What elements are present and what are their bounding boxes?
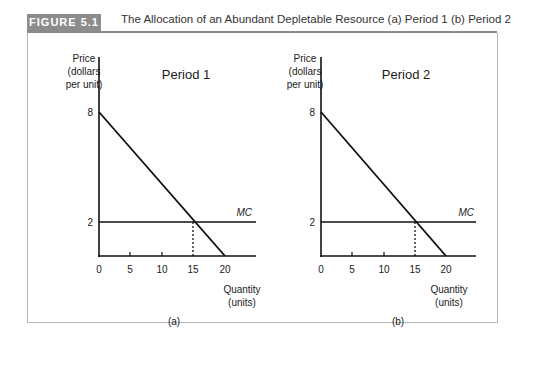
x-tick-20: 20 [219, 264, 231, 275]
mc-label: MC [236, 207, 252, 218]
demand-curve [99, 112, 225, 256]
panel-title: Period 1 [162, 67, 210, 82]
x-tick-5: 5 [127, 264, 133, 275]
x-tick-10: 10 [378, 264, 390, 275]
x-tick-0: 0 [96, 264, 102, 275]
x-tick-15: 15 [409, 264, 421, 275]
panel-period-1: Price (dollars per unit) Period 1 8 2 0 … [66, 53, 261, 327]
y-axis-label-line1: Price [294, 53, 317, 64]
x-axis-label-line2: (units) [435, 297, 463, 308]
y-tick-2: 2 [309, 217, 315, 228]
y-tick-2: 2 [87, 217, 93, 228]
x-axis-label-line1: Quantity [223, 284, 260, 295]
demand-curve [321, 112, 446, 256]
y-axis-label-line2: (dollars [289, 66, 322, 77]
y-axis-label-line3: per unit) [66, 79, 103, 90]
y-axis-label-line2: (dollars [68, 66, 101, 77]
panel-caption: (a) [168, 316, 180, 327]
x-axis-label-line1: Quantity [430, 284, 467, 295]
x-tick-15: 15 [187, 264, 199, 275]
x-tick-0: 0 [318, 264, 324, 275]
x-tick-10: 10 [156, 264, 168, 275]
panel-title: Period 2 [382, 67, 430, 82]
y-tick-8: 8 [87, 107, 93, 118]
x-tick-20: 20 [440, 264, 452, 275]
x-tick-5: 5 [349, 264, 355, 275]
y-axis-label-line3: per unit) [287, 79, 324, 90]
y-axis-label-line1: Price [73, 53, 96, 64]
mc-label: MC [458, 207, 474, 218]
x-axis-label-line2: (units) [228, 297, 256, 308]
figure-charts: Price (dollars per unit) Period 1 8 2 0 … [0, 0, 548, 367]
y-tick-8: 8 [309, 107, 315, 118]
panel-caption: (b) [392, 316, 404, 327]
panel-period-2: Price (dollars per unit) Period 2 8 2 0 … [287, 53, 476, 327]
